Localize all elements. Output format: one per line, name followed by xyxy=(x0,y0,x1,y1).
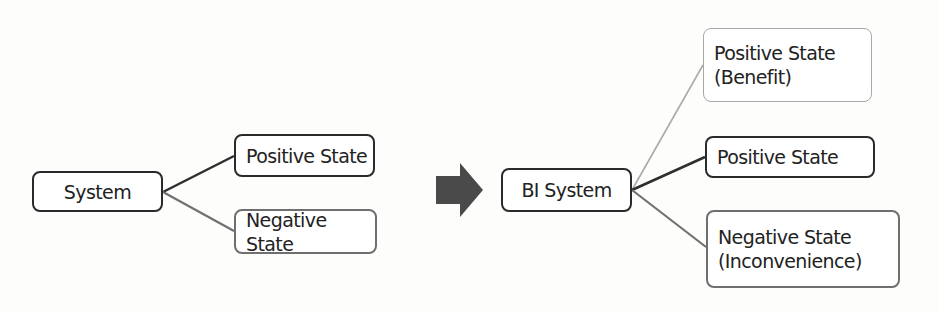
bi-system-label: BI System xyxy=(521,178,611,202)
positive-state-benefit-label: Positive State (Benefit) xyxy=(714,41,835,89)
link-system-positive xyxy=(163,156,234,192)
positive-state-node: Positive State xyxy=(234,134,375,177)
bi-positive-state-label: Positive State xyxy=(717,145,838,169)
bi-system-node: BI System xyxy=(501,168,632,212)
system-node-label: System xyxy=(64,180,131,204)
positive-state-benefit-node: Positive State (Benefit) xyxy=(703,28,872,102)
link-bi-positive xyxy=(632,157,705,190)
link-bi-benefit xyxy=(632,65,703,190)
system-node: System xyxy=(32,171,163,212)
link-bi-negative xyxy=(632,190,706,247)
negative-state-label: Negative State xyxy=(246,208,375,256)
negative-state-inconvenience-node: Negative State (Inconvenience) xyxy=(706,210,900,288)
negative-state-inconvenience-label: Negative State (Inconvenience) xyxy=(718,225,862,273)
link-system-negative xyxy=(163,192,234,231)
bi-positive-state-node: Positive State xyxy=(705,136,875,178)
negative-state-node: Negative State xyxy=(234,209,377,254)
positive-state-label: Positive State xyxy=(246,144,367,168)
right-arrow-icon xyxy=(436,163,484,217)
